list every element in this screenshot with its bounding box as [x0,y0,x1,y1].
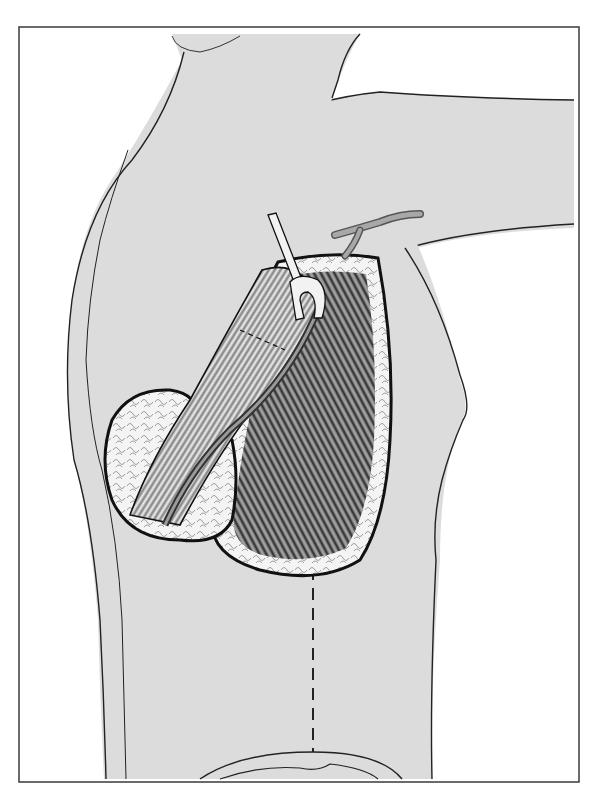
anatomical-illustration [0,0,592,799]
